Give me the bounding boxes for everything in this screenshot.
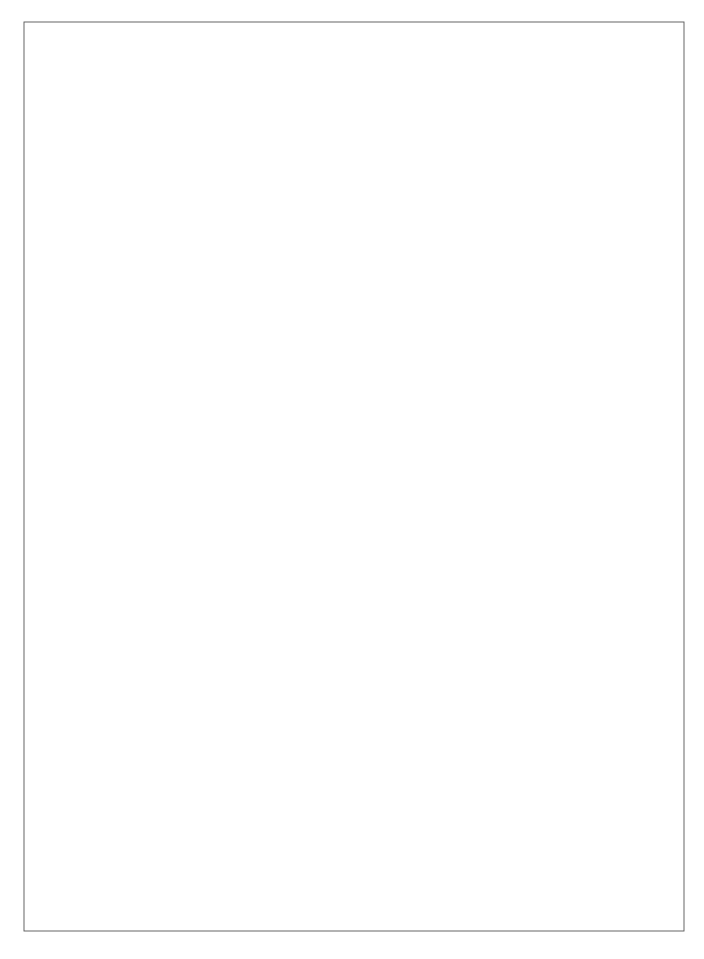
pattern-page (0, 0, 704, 959)
page-background (0, 0, 704, 959)
tessellation-drawing (0, 0, 704, 959)
